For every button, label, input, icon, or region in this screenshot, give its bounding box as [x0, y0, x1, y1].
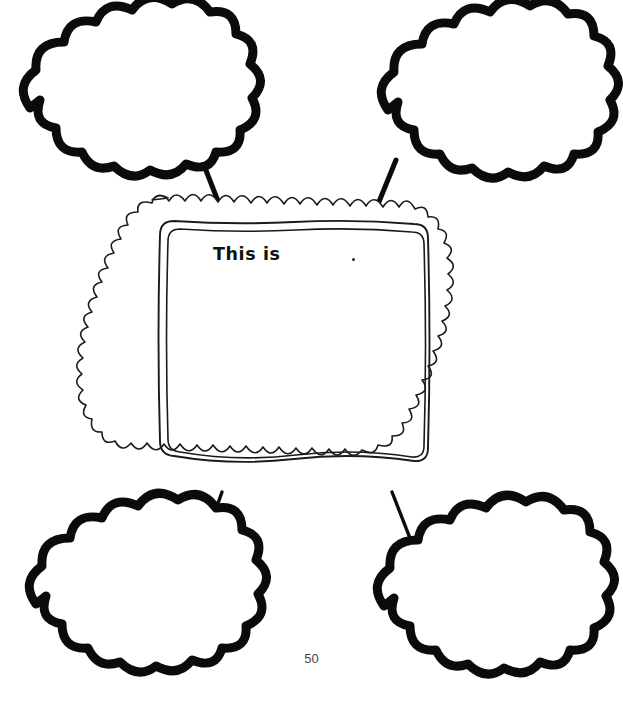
prompt-period-mark — [352, 258, 355, 261]
page-number: 50 — [0, 651, 623, 666]
center-frame-graphic — [77, 195, 454, 462]
worksheet-graphics — [0, 0, 623, 701]
bubble-bottom-left[interactable] — [29, 493, 266, 672]
bubble-bottom-right[interactable] — [377, 495, 614, 674]
worksheet-page: This is 50 — [0, 0, 623, 701]
frame-outer-scallop — [77, 195, 454, 456]
bubble-top-left[interactable] — [23, 0, 260, 176]
page-title: This is — [213, 244, 281, 264]
bubble-top-right[interactable] — [381, 0, 618, 178]
